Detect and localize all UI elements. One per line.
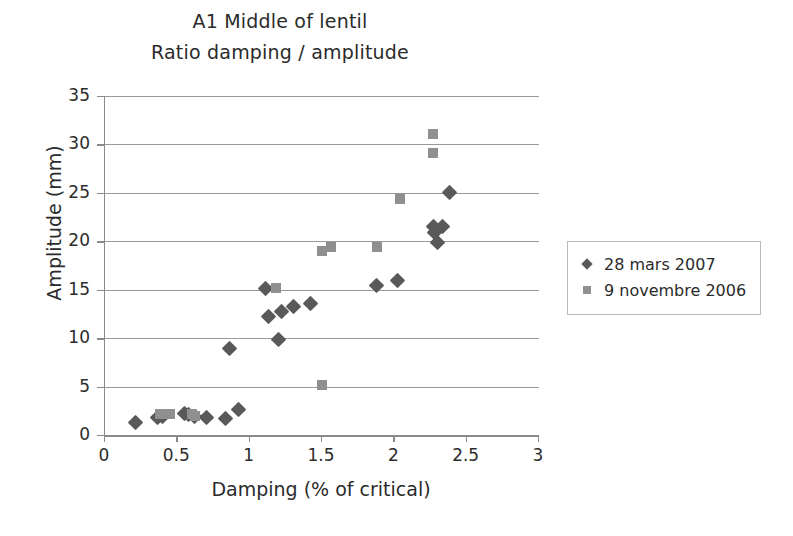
chart-title-block: A1 Middle of lentil Ratio damping / ampl… — [0, 6, 560, 68]
y-axis-tick — [97, 144, 104, 145]
y-axis-tick-label: 25 — [30, 182, 90, 202]
gridline-y — [105, 241, 539, 242]
legend-item-series-2[interactable]: 9 novembre 2006 — [578, 277, 750, 303]
y-axis-tick-label: 0 — [30, 424, 90, 444]
data-point-marker — [428, 129, 438, 139]
data-point-marker — [271, 331, 287, 347]
y-axis-tick-label-wrap: 20 — [28, 230, 90, 250]
y-axis-tick-label: 30 — [30, 133, 90, 153]
gridline-y — [105, 290, 539, 291]
y-axis-tick — [97, 193, 104, 194]
y-axis-title: Amplitude (mm) — [43, 83, 65, 363]
x-axis-tick — [321, 435, 322, 442]
y-axis-tick — [97, 290, 104, 291]
y-axis-tick — [97, 387, 104, 388]
x-axis-tick — [538, 435, 539, 442]
y-axis-tick-label-wrap: 5 — [28, 376, 90, 396]
x-axis-tick-label: 2.5 — [436, 445, 496, 465]
y-axis-tick-label-wrap: 10 — [28, 327, 90, 347]
chart-title: A1 Middle of lentil — [0, 6, 560, 36]
data-point-marker — [190, 411, 200, 421]
data-point-marker — [303, 295, 319, 311]
legend-swatch-series-2 — [583, 286, 591, 294]
x-axis-tick — [393, 435, 394, 442]
x-axis-tick — [466, 435, 467, 442]
x-axis-tick-label: 0 — [74, 445, 134, 465]
x-axis-tick — [249, 435, 250, 442]
scatter-chart-figure: A1 Middle of lentil Ratio damping / ampl… — [0, 0, 793, 536]
y-axis-tick-label: 15 — [30, 279, 90, 299]
y-axis-tick-label-wrap: 0 — [28, 424, 90, 444]
data-point-marker — [389, 273, 405, 289]
data-point-marker — [369, 278, 385, 294]
x-axis-tick — [104, 435, 105, 442]
data-point-marker — [317, 380, 327, 390]
chart-legend: 28 mars 2007 9 novembre 2006 — [567, 241, 761, 315]
y-axis-tick — [97, 435, 104, 436]
x-axis-title: Damping (% of critical) — [104, 478, 538, 500]
data-point-marker — [165, 409, 175, 419]
x-axis-tick-label: 0.5 — [146, 445, 206, 465]
y-axis-tick-label-wrap: 15 — [28, 279, 90, 299]
y-axis-tick-label: 20 — [30, 230, 90, 250]
legend-square-marker-icon — [578, 286, 596, 294]
x-axis-tick-label: 1 — [219, 445, 279, 465]
y-axis-tick — [97, 241, 104, 242]
data-point-marker — [271, 283, 281, 293]
data-point-marker — [442, 185, 458, 201]
data-point-marker — [222, 341, 238, 357]
data-point-marker — [326, 242, 336, 252]
legend-swatch-series-1 — [581, 258, 592, 269]
legend-label-series-2: 9 novembre 2006 — [596, 281, 746, 300]
x-axis-tick-label: 2 — [363, 445, 423, 465]
y-axis-tick — [97, 338, 104, 339]
data-point-marker — [395, 194, 405, 204]
data-point-marker — [217, 411, 233, 427]
plot-area — [104, 96, 538, 435]
y-axis-tick-label-wrap: 25 — [28, 182, 90, 202]
data-point-marker — [198, 410, 214, 426]
gridline-y — [105, 96, 539, 97]
y-axis-tick-label-wrap: 30 — [28, 133, 90, 153]
legend-diamond-marker-icon — [578, 260, 596, 268]
y-axis-tick-label-wrap: 35 — [28, 85, 90, 105]
gridline-y — [105, 338, 539, 339]
gridline-y — [105, 193, 539, 194]
y-axis-tick-label: 35 — [30, 85, 90, 105]
x-axis-tick — [176, 435, 177, 442]
x-axis-tick-label: 1.5 — [291, 445, 351, 465]
legend-label-series-1: 28 mars 2007 — [596, 255, 716, 274]
x-axis-tick-label: 3 — [508, 445, 568, 465]
legend-item-series-1[interactable]: 28 mars 2007 — [578, 251, 750, 277]
data-point-marker — [428, 148, 438, 158]
data-point-marker — [155, 409, 165, 419]
chart-subtitle: Ratio damping / amplitude — [0, 36, 560, 68]
gridline-y — [105, 144, 539, 145]
data-point-marker — [372, 242, 382, 252]
y-axis-tick-label: 5 — [30, 376, 90, 396]
y-axis-tick-label: 10 — [30, 327, 90, 347]
data-point-marker — [128, 415, 144, 431]
data-point-marker — [230, 402, 246, 418]
y-axis-tick — [97, 96, 104, 97]
